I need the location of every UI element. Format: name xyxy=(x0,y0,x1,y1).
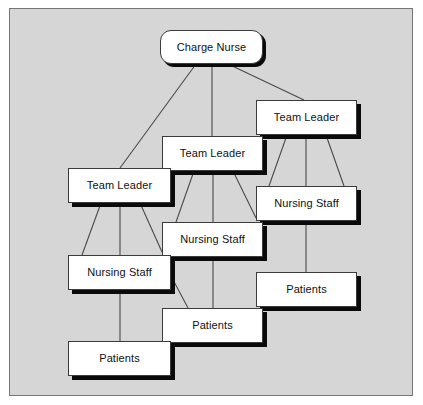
edge-nursing-staff-1-patients-2 xyxy=(171,276,188,308)
edge-team-leader-2-nursing-staff-3 xyxy=(233,171,256,218)
edge-team-leader-3-nursing-staff-3-left xyxy=(269,135,287,186)
node-label: Nursing Staff xyxy=(274,198,339,209)
node-label: Team Leader xyxy=(87,180,152,191)
node-nursing-staff-1[interactable]: Nursing Staff xyxy=(68,255,171,290)
node-label: Patients xyxy=(99,353,140,364)
edge-charge-nurse-team-leader-3 xyxy=(228,64,304,100)
node-team-leader-1[interactable]: Team Leader xyxy=(68,168,171,203)
node-label: Nursing Staff xyxy=(87,267,152,278)
node-team-leader-3[interactable]: Team Leader xyxy=(256,100,357,135)
edge-team-leader-1-nursing-staff-1-left xyxy=(82,203,101,255)
node-nursing-staff-2[interactable]: Nursing Staff xyxy=(162,222,263,257)
node-patients-2[interactable]: Patients xyxy=(162,308,263,343)
node-charge-nurse[interactable]: Charge Nurse xyxy=(160,30,263,64)
node-patients-1[interactable]: Patients xyxy=(68,341,171,376)
node-label: Patients xyxy=(286,284,327,295)
node-team-leader-2[interactable]: Team Leader xyxy=(162,136,263,171)
node-label: Charge Nurse xyxy=(177,42,247,53)
node-nursing-staff-3[interactable]: Nursing Staff xyxy=(256,186,357,221)
node-label: Nursing Staff xyxy=(180,234,245,245)
edge-team-leader-2-nursing-staff-2-left xyxy=(176,171,194,222)
edge-team-leader-1-nursing-staff-2 xyxy=(140,203,162,252)
edge-team-leader-3-nursing-staff-3-right xyxy=(326,135,344,186)
diagram-canvas: Charge Nurse Team Leader Team Leader Tea… xyxy=(0,0,423,405)
node-label: Team Leader xyxy=(274,112,339,123)
node-label: Team Leader xyxy=(180,148,245,159)
node-patients-3[interactable]: Patients xyxy=(256,272,357,307)
node-label: Patients xyxy=(192,320,233,331)
